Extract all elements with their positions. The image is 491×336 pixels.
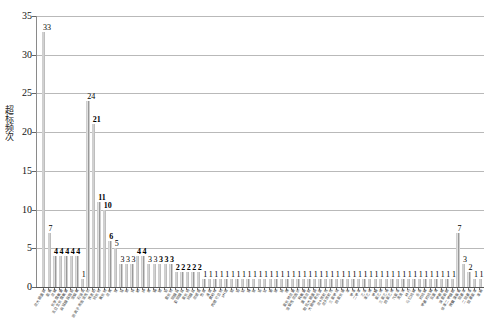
bar-rect: 1 <box>357 279 360 287</box>
bar-value-label: 1 <box>259 271 263 279</box>
bar: 1 <box>445 15 448 287</box>
bar-rect: 2 <box>175 272 178 287</box>
bar-value-label: 1 <box>231 271 235 279</box>
bar-value-label: 4 <box>76 248 80 256</box>
bar-rect: 1 <box>390 279 393 287</box>
x-tick-label: 总大肠菌群 <box>34 289 47 308</box>
x-axis-labels: 总大肠菌群氨氮总磷化学需氧量五日生化需氧量高锰酸盐指数溶解氧石油类阴离子表面活性… <box>36 289 484 336</box>
bar: 3 <box>130 15 133 287</box>
bar: 2 <box>175 15 178 287</box>
bar-value-label: 1 <box>430 271 434 279</box>
bar-value-label: 1 <box>209 271 213 279</box>
bar-value-label: 3 <box>120 256 124 264</box>
bar-rect: 5 <box>114 248 117 287</box>
bar: 3 <box>153 15 156 287</box>
bar: 1 <box>346 15 349 287</box>
bar-value-label: 4 <box>137 248 141 256</box>
bar-value-label: 1 <box>292 271 296 279</box>
y-tick-label: 10 <box>4 205 32 215</box>
bar: 1 <box>423 15 426 287</box>
bar: 7 <box>48 15 51 287</box>
bar: 1 <box>324 15 327 287</box>
bar-rect: 3 <box>169 264 172 287</box>
bar-value-label: 1 <box>352 271 356 279</box>
bar-rect: 4 <box>75 256 78 287</box>
bar-value-label: 1 <box>281 271 285 279</box>
bar: 1 <box>396 15 399 287</box>
bar-value-label: 5 <box>115 240 119 248</box>
bar-value-label: 3 <box>463 256 467 264</box>
bar: 1 <box>224 15 227 287</box>
bar: 1 <box>390 15 393 287</box>
bar-value-label: 1 <box>375 271 379 279</box>
bar-rect: 1 <box>407 279 410 287</box>
bar: 1 <box>362 15 365 287</box>
bar-rect: 1 <box>313 279 316 287</box>
bar: 4 <box>59 15 62 287</box>
bar: 2 <box>191 15 194 287</box>
bar-rect: 1 <box>246 279 249 287</box>
bar-value-label: 1 <box>446 271 450 279</box>
bar: 1 <box>291 15 294 287</box>
bar: 1 <box>263 15 266 287</box>
plot-area: 3374444412421111065333443333322222111111… <box>36 16 484 288</box>
bar: 11 <box>97 15 100 287</box>
bar-value-label: 1 <box>480 271 484 279</box>
bar-rect: 2 <box>191 272 194 287</box>
bar-value-label: 6 <box>109 233 113 241</box>
bar: 1 <box>429 15 432 287</box>
bar-rect: 1 <box>451 279 454 287</box>
bar-rect: 3 <box>125 264 128 287</box>
bar: 4 <box>75 15 78 287</box>
bar: 1 <box>451 15 454 287</box>
bar-rect: 1 <box>230 279 233 287</box>
bar-value-label: 3 <box>131 256 135 264</box>
bar: 1 <box>280 15 283 287</box>
bar-value-label: 1 <box>402 271 406 279</box>
bar-rect: 1 <box>362 279 365 287</box>
bar: 7 <box>456 15 459 287</box>
bar: 33 <box>42 15 45 287</box>
bar: 2 <box>186 15 189 287</box>
bar-value-label: 1 <box>253 271 257 279</box>
bar: 1 <box>313 15 316 287</box>
bar: 1 <box>202 15 205 287</box>
bar-value-label: 3 <box>170 256 174 264</box>
bar-rect: 4 <box>136 256 139 287</box>
bar: 1 <box>269 15 272 287</box>
bar-rect: 1 <box>340 279 343 287</box>
bar-rect: 1 <box>346 279 349 287</box>
bar: 4 <box>53 15 56 287</box>
bar-rect: 1 <box>379 279 382 287</box>
bar: 5 <box>114 15 117 287</box>
bar-rect: 1 <box>396 279 399 287</box>
bar-rect: 1 <box>269 279 272 287</box>
bar-rect: 3 <box>158 264 161 287</box>
bar: 3 <box>164 15 167 287</box>
bar-rect: 3 <box>462 264 465 287</box>
bar-value-label: 1 <box>380 271 384 279</box>
bar: 1 <box>213 15 216 287</box>
bar-value-label: 1 <box>419 271 423 279</box>
bar-rect: 1 <box>219 279 222 287</box>
bar-value-label: 3 <box>159 256 163 264</box>
bar-rect: 1 <box>440 279 443 287</box>
bar-value-label: 2 <box>198 264 202 272</box>
bar-value-label: 1 <box>270 271 274 279</box>
bar-rect: 3 <box>130 264 133 287</box>
bar-value-label: 4 <box>60 248 64 256</box>
bar-rect: 6 <box>108 241 111 287</box>
bar-rect: 21 <box>92 124 95 287</box>
bar-value-label: 7 <box>49 225 53 233</box>
bar-value-label: 1 <box>397 271 401 279</box>
bar-value-label: 1 <box>247 271 251 279</box>
bar-rect: 1 <box>258 279 261 287</box>
bar: 1 <box>368 15 371 287</box>
bar-value-label: 1 <box>82 271 86 279</box>
bar-rect: 1 <box>423 279 426 287</box>
bar-value-label: 1 <box>452 271 456 279</box>
bar: 6 <box>108 15 111 287</box>
bar-value-label: 2 <box>176 264 180 272</box>
bar: 1 <box>335 15 338 287</box>
bar: 1 <box>473 15 476 287</box>
